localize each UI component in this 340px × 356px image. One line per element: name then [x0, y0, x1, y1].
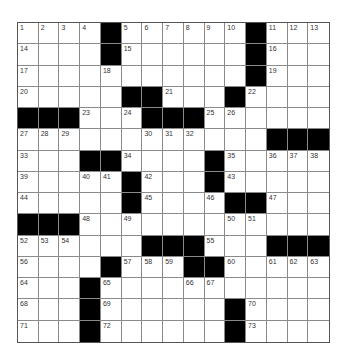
grid-cell[interactable]	[205, 299, 226, 320]
grid-cell[interactable]	[80, 129, 101, 150]
grid-cell[interactable]: 72	[101, 321, 122, 342]
grid-cell[interactable]	[205, 214, 226, 235]
grid-cell[interactable]	[308, 172, 329, 193]
grid-cell[interactable]: 4	[80, 23, 101, 44]
grid-cell[interactable]: 41	[101, 172, 122, 193]
grid-cell[interactable]	[308, 66, 329, 87]
grid-cell[interactable]	[308, 214, 329, 235]
grid-cell[interactable]	[308, 108, 329, 129]
grid-cell[interactable]	[288, 108, 309, 129]
grid-cell[interactable]: 60	[225, 257, 246, 278]
grid-cell[interactable]: 5	[122, 23, 143, 44]
grid-cell[interactable]: 46	[205, 193, 226, 214]
grid-cell[interactable]: 32	[184, 129, 205, 150]
grid-cell[interactable]	[205, 87, 226, 108]
grid-cell[interactable]	[246, 257, 267, 278]
grid-cell[interactable]	[80, 44, 101, 65]
grid-cell[interactable]: 38	[308, 151, 329, 172]
grid-cell[interactable]: 18	[101, 66, 122, 87]
grid-cell[interactable]	[39, 257, 60, 278]
grid-cell[interactable]	[288, 214, 309, 235]
grid-cell[interactable]	[225, 66, 246, 87]
grid-cell[interactable]	[288, 66, 309, 87]
grid-cell[interactable]: 21	[163, 87, 184, 108]
grid-cell[interactable]	[267, 278, 288, 299]
grid-cell[interactable]: 42	[142, 172, 163, 193]
grid-cell[interactable]: 1	[18, 23, 39, 44]
grid-cell[interactable]	[80, 193, 101, 214]
grid-cell[interactable]: 40	[80, 172, 101, 193]
grid-cell[interactable]: 67	[205, 278, 226, 299]
grid-cell[interactable]: 48	[80, 214, 101, 235]
grid-cell[interactable]: 13	[308, 23, 329, 44]
grid-cell[interactable]	[122, 278, 143, 299]
grid-cell[interactable]	[39, 193, 60, 214]
grid-cell[interactable]: 71	[18, 321, 39, 342]
grid-cell[interactable]	[142, 151, 163, 172]
grid-cell[interactable]	[246, 278, 267, 299]
grid-cell[interactable]: 27	[18, 129, 39, 150]
grid-cell[interactable]	[225, 129, 246, 150]
grid-cell[interactable]: 70	[246, 299, 267, 320]
grid-cell[interactable]	[80, 236, 101, 257]
grid-cell[interactable]	[184, 151, 205, 172]
grid-cell[interactable]: 33	[18, 151, 39, 172]
grid-cell[interactable]	[142, 44, 163, 65]
grid-cell[interactable]	[225, 236, 246, 257]
grid-cell[interactable]	[184, 193, 205, 214]
grid-cell[interactable]: 31	[163, 129, 184, 150]
grid-cell[interactable]	[288, 172, 309, 193]
grid-cell[interactable]: 8	[184, 23, 205, 44]
grid-cell[interactable]	[163, 214, 184, 235]
grid-cell[interactable]	[288, 193, 309, 214]
grid-cell[interactable]	[59, 257, 80, 278]
grid-cell[interactable]	[80, 66, 101, 87]
grid-cell[interactable]	[59, 278, 80, 299]
grid-cell[interactable]	[122, 66, 143, 87]
grid-cell[interactable]: 59	[163, 257, 184, 278]
grid-cell[interactable]	[184, 299, 205, 320]
grid-cell[interactable]	[184, 66, 205, 87]
grid-cell[interactable]	[267, 299, 288, 320]
grid-cell[interactable]	[205, 66, 226, 87]
grid-cell[interactable]	[39, 321, 60, 342]
grid-cell[interactable]: 36	[267, 151, 288, 172]
grid-cell[interactable]	[163, 278, 184, 299]
grid-cell[interactable]	[225, 44, 246, 65]
grid-cell[interactable]: 9	[205, 23, 226, 44]
grid-cell[interactable]: 61	[267, 257, 288, 278]
grid-cell[interactable]: 35	[225, 151, 246, 172]
grid-cell[interactable]	[246, 151, 267, 172]
grid-cell[interactable]	[267, 87, 288, 108]
grid-cell[interactable]	[308, 299, 329, 320]
grid-cell[interactable]	[184, 214, 205, 235]
grid-cell[interactable]	[142, 214, 163, 235]
grid-cell[interactable]	[205, 321, 226, 342]
grid-cell[interactable]: 54	[59, 236, 80, 257]
grid-cell[interactable]	[246, 108, 267, 129]
grid-cell[interactable]	[308, 44, 329, 65]
grid-cell[interactable]: 47	[267, 193, 288, 214]
grid-cell[interactable]: 3	[59, 23, 80, 44]
grid-cell[interactable]	[308, 278, 329, 299]
grid-cell[interactable]: 39	[18, 172, 39, 193]
grid-cell[interactable]	[80, 257, 101, 278]
grid-cell[interactable]	[184, 44, 205, 65]
grid-cell[interactable]	[205, 44, 226, 65]
grid-cell[interactable]	[267, 172, 288, 193]
grid-cell[interactable]	[163, 299, 184, 320]
grid-cell[interactable]	[163, 66, 184, 87]
grid-cell[interactable]: 17	[18, 66, 39, 87]
grid-cell[interactable]: 49	[122, 214, 143, 235]
grid-cell[interactable]	[59, 193, 80, 214]
grid-cell[interactable]: 64	[18, 278, 39, 299]
grid-cell[interactable]: 28	[39, 129, 60, 150]
grid-cell[interactable]	[184, 321, 205, 342]
grid-cell[interactable]: 62	[288, 257, 309, 278]
grid-cell[interactable]	[308, 87, 329, 108]
grid-cell[interactable]	[163, 193, 184, 214]
grid-cell[interactable]	[142, 321, 163, 342]
grid-cell[interactable]	[288, 44, 309, 65]
grid-cell[interactable]: 11	[267, 23, 288, 44]
grid-cell[interactable]: 30	[142, 129, 163, 150]
